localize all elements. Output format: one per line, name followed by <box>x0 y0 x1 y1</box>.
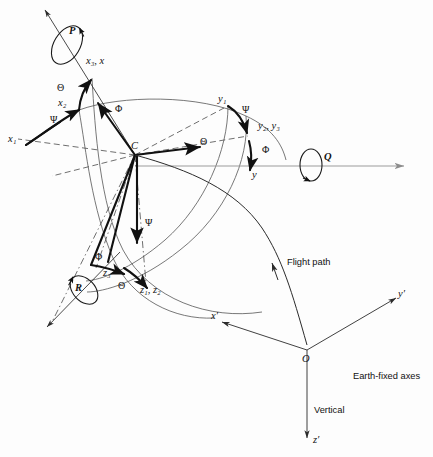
x1-axis-label: x₁ <box>8 134 16 145</box>
theta-symbol-x2x3: Θ <box>57 83 64 93</box>
q-rotation-ellipse-group <box>300 149 322 181</box>
earth-x-prime-label: x′ <box>211 311 218 322</box>
theta-symbol-center: Θ <box>200 137 207 147</box>
x3-x-axis-label: x₃, x <box>86 56 104 67</box>
q-rotation-arrowhead <box>303 178 310 181</box>
angle-arc-marks <box>26 80 251 288</box>
roll-rate-label: P <box>69 26 75 37</box>
flight-path-curve <box>135 155 307 345</box>
earth-z-prime-label: z′ <box>313 435 319 446</box>
y1-axis-label: y₁ <box>218 94 226 105</box>
x2-axis-label: x₂ <box>58 98 66 109</box>
r-rotation-ellipse <box>65 270 104 309</box>
earth-fixed-axes-label: Earth-fixed axes <box>353 372 420 381</box>
psi-symbol-x1x2: Ψ <box>50 115 57 125</box>
flight-path-group <box>135 155 307 345</box>
z3-axis-label: z₃ <box>103 268 111 279</box>
y23-axis-label: y₂, y₃ <box>258 121 280 132</box>
dash-c-to-x1 <box>18 139 135 155</box>
psi-symbol-down: Ψ <box>145 218 152 228</box>
phi-symbol-upper: Φ <box>115 104 122 114</box>
z12-axis-label: z₁, z₂ <box>140 285 161 296</box>
pitch-rate-label: Q <box>324 152 332 163</box>
earth-x-prime-axis <box>222 322 307 350</box>
earth-origin-label: O <box>302 354 310 365</box>
dashdot-c-to-R <box>52 155 135 322</box>
flight-path-arrowhead <box>272 263 278 280</box>
phi-symbol-lower: Φ <box>95 252 102 262</box>
p-rotation-arrowhead <box>77 28 86 36</box>
euler-vectors <box>91 103 200 265</box>
bold-c-to-z3-vertex <box>91 155 135 265</box>
theta-symbol-lower: Θ <box>118 281 125 291</box>
psi-symbol-y1y23: Ψ <box>242 105 249 115</box>
arc-y1-sweep <box>86 106 228 281</box>
r-axis-line <box>47 252 120 327</box>
theta-vector <box>135 147 200 155</box>
earth-y-prime-label: y′ <box>398 289 405 300</box>
bold-c-wedge-leg <box>108 155 135 262</box>
earth-y-prime-axis <box>307 298 396 350</box>
q-rotation-ellipse <box>300 149 322 181</box>
yaw-rate-label: R <box>75 283 82 294</box>
dash-c-lower-left <box>52 155 135 176</box>
arc-upper-x2-to-y23 <box>79 99 286 160</box>
phi-symbol-y23y: Φ <box>262 145 269 155</box>
theta-arc-x2-x3 <box>79 80 91 110</box>
body-origin-label: C <box>131 141 138 152</box>
y-axis-label: y <box>252 170 257 181</box>
x1-bold-stub <box>26 122 60 145</box>
flight-path-label: Flight path <box>287 258 330 267</box>
figure-canvas: P Q R x₃, x x₁ x₂ C y₁ y₂, y₃ y z₃ z₁, z… <box>0 0 433 457</box>
vertical-label: Vertical <box>314 406 345 415</box>
diagram-svg <box>0 0 433 457</box>
dash-c-to-y1 <box>135 108 224 155</box>
earth-fixed-axes-group <box>222 298 396 438</box>
